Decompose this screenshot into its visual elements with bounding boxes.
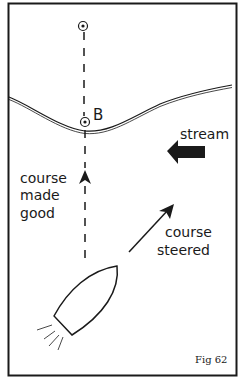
course-steered-label-1: course [165,224,212,240]
target-marker-icon [79,22,88,31]
course-made-good-label-2: made [20,187,60,203]
stream-arrow-icon [167,140,205,164]
point-b-label: B [93,106,103,124]
figure-caption: Fig 62 [195,354,227,365]
course-made-good-label-3: good [20,205,55,221]
point-b-marker-icon [81,118,90,127]
wake-icon [37,325,63,350]
diagram: B stream course made good course steered… [0,0,245,379]
boat-icon [54,266,117,335]
course-steered-label-2: steered [157,242,210,258]
stream-label: stream [180,126,229,142]
course-made-good-arrowhead-icon [79,170,91,184]
course-made-good-label-1: course [20,170,67,186]
